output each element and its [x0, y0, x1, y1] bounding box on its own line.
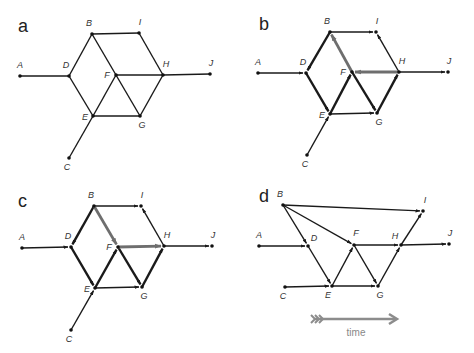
node-i	[137, 31, 141, 35]
node-label-h: H	[163, 59, 170, 69]
node-label-g: G	[138, 120, 145, 130]
node-i	[374, 30, 378, 34]
node-a	[256, 71, 260, 75]
node-label-e: E	[82, 112, 89, 122]
node-h	[161, 73, 165, 77]
edge-b-d	[69, 34, 92, 76]
panel-letter: b	[259, 14, 269, 34]
node-f	[116, 245, 120, 249]
edge-h-i	[139, 33, 163, 75]
node-label-e: E	[319, 110, 326, 120]
node-e	[328, 112, 332, 116]
edge-c-e	[307, 117, 329, 155]
node-b	[90, 32, 94, 36]
node-label-a: A	[16, 60, 23, 70]
edge-e-f	[332, 248, 353, 286]
node-label-h: H	[164, 230, 171, 240]
edge-b-f	[94, 206, 116, 244]
node-j	[208, 72, 212, 76]
panel-letter: c	[18, 191, 27, 211]
node-label-d: D	[63, 60, 70, 70]
node-d	[306, 244, 310, 248]
node-d	[69, 245, 73, 249]
panel-letter: a	[18, 16, 29, 36]
node-label-d: D	[65, 231, 72, 241]
edge-c-e	[71, 291, 94, 330]
node-d	[304, 71, 308, 75]
node-label-c: C	[280, 291, 287, 301]
node-g	[376, 284, 380, 288]
node-label-g: G	[376, 290, 383, 300]
edge-h-j	[163, 74, 210, 75]
time-label: time	[347, 327, 366, 338]
node-label-j: J	[446, 56, 452, 66]
edge-a-d	[22, 247, 68, 248]
edge-d-e	[306, 73, 328, 111]
node-h	[399, 243, 403, 247]
node-label-c: C	[64, 162, 71, 172]
node-b	[281, 203, 285, 207]
node-g	[375, 111, 379, 115]
node-g	[138, 114, 142, 118]
node-label-f: F	[106, 242, 112, 252]
node-c	[67, 156, 71, 160]
edge-d-e	[69, 76, 93, 116]
panel-c: ABCDEFGHIJc	[18, 190, 216, 344]
panel-letter: d	[259, 186, 269, 206]
edge-g-h	[142, 249, 163, 287]
node-label-f: F	[340, 67, 346, 77]
node-label-g: G	[375, 117, 382, 127]
node-h	[397, 70, 401, 74]
edge-e-f	[330, 75, 351, 114]
node-b	[328, 30, 332, 34]
node-label-i: I	[424, 195, 427, 205]
node-g	[140, 285, 144, 289]
node-e	[91, 114, 95, 118]
node-label-b: B	[277, 189, 283, 199]
panel-b: ABCDEFGHIJb	[254, 14, 452, 169]
node-label-b: B	[324, 16, 330, 26]
node-c	[69, 328, 73, 332]
node-j	[446, 70, 450, 74]
panel-a: ABCDEFGHIJa	[16, 16, 214, 172]
edge-e-g	[95, 287, 139, 288]
node-f	[114, 73, 118, 77]
edge-f-g	[118, 247, 140, 284]
edge-b-i	[283, 205, 420, 211]
node-label-b: B	[88, 190, 94, 200]
node-a	[18, 74, 22, 78]
node-d	[67, 74, 71, 78]
panel-d: ABCDEFGHIJd	[255, 186, 453, 301]
edge-g-h	[140, 75, 163, 116]
edge-f-h	[118, 246, 161, 247]
edge-g-h	[377, 75, 398, 113]
edge-f-g	[352, 72, 375, 110]
edge-b-d	[72, 206, 94, 244]
node-label-g: G	[140, 291, 147, 301]
edge-d-e	[71, 247, 93, 285]
node-j	[447, 242, 451, 246]
node-label-f: F	[104, 70, 110, 80]
edge-c-e	[69, 116, 93, 158]
network-diagram: ABCDEFGHIJa ABCDEFGHIJb ABCDEFGHIJc ABCD…	[0, 0, 474, 353]
node-label-i: I	[376, 16, 379, 26]
node-h	[162, 244, 166, 248]
edge-h-i	[401, 214, 421, 245]
node-label-i: I	[141, 190, 144, 200]
node-label-e: E	[84, 284, 91, 294]
edge-h-j	[401, 244, 446, 245]
node-label-i: I	[139, 17, 142, 27]
edge-e-g	[330, 113, 374, 114]
node-label-j: J	[447, 228, 453, 238]
edge-b-i	[92, 33, 139, 34]
node-label-d: D	[300, 57, 307, 67]
node-b	[92, 204, 96, 208]
node-label-a: A	[254, 57, 261, 67]
node-j	[210, 244, 214, 248]
edge-e-f	[93, 75, 116, 116]
node-label-a: A	[255, 230, 262, 240]
edge-d-e	[308, 246, 330, 283]
node-c	[305, 153, 309, 157]
node-a	[20, 246, 24, 250]
node-label-d: D	[311, 233, 318, 243]
